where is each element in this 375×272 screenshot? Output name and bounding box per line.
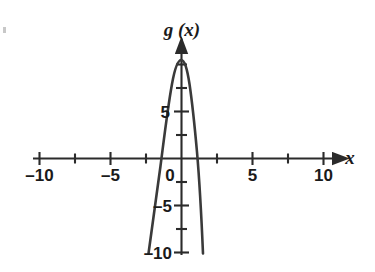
parabola-curve (149, 60, 204, 254)
figure-canvas: –10 –5 0 5 10 5 –5 –10 x g (x) (0, 0, 375, 272)
y-tick-label-neg5: –5 (153, 197, 172, 216)
x-tick-label-neg10: –10 (25, 166, 53, 185)
x-tick-label-neg5: –5 (101, 166, 120, 185)
parabola-plot: –10 –5 0 5 10 5 –5 –10 x g (x) (0, 0, 375, 272)
x-tick-label-10: 10 (314, 166, 333, 185)
y-tick-label-neg10: –10 (144, 244, 172, 263)
x-axis-label: x (344, 147, 355, 168)
y-tick-label-5: 5 (161, 103, 170, 122)
x-tick-label-5: 5 (248, 166, 257, 185)
x-tick-label-0: 0 (165, 166, 174, 185)
y-axis-label: g (x) (163, 19, 200, 41)
